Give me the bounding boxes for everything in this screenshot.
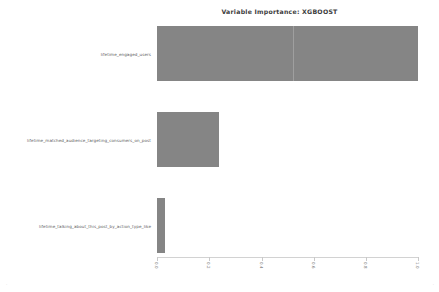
bar-row: lifetime_talking_about_this_post_by_acti… (157, 198, 418, 253)
x-axis-tick (314, 257, 315, 261)
x-axis-tick (157, 257, 158, 261)
bar-row: lifetime_engaged_users (157, 26, 418, 81)
y-axis-label-2: lifetime_talking_about_this_post_by_acti… (39, 223, 151, 228)
corner-mark-left: · (6, 282, 7, 287)
bar-lifetime-engaged-users[interactable] (157, 26, 418, 81)
x-axis-tick (262, 257, 263, 261)
bar-lifetime-matched-audience-targeting-consumers-on-post[interactable] (157, 112, 219, 167)
y-axis-label-1: lifetime_matched_audience_targeting_cons… (27, 137, 151, 142)
x-axis-tick-label-4: 0.8 (363, 262, 368, 269)
variable-importance-chart: Variable Importance: XGBOOST lifetime_en… (0, 0, 439, 292)
x-axis-tick-label-5: 1.0 (415, 262, 420, 269)
x-axis-tick-label-2: 0.4 (259, 262, 264, 269)
x-axis-tick (209, 257, 210, 261)
corner-mark-right: · (433, 282, 434, 287)
x-axis-tick (418, 257, 419, 261)
x-axis-line (157, 257, 419, 258)
x-axis-tick (366, 257, 367, 261)
x-axis-tick-label-0: 0.0 (154, 262, 159, 269)
plot-area: lifetime_engaged_users lifetime_matched_… (157, 24, 418, 257)
chart-title-text: Variable Importance: XGBOOST (221, 8, 337, 15)
x-axis-tick-label-1: 0.2 (206, 262, 211, 269)
x-axis-tick-label-3: 0.6 (311, 262, 316, 269)
bar-seam (293, 26, 294, 81)
bar-lifetime-talking-about-this-post-by-action-type-like[interactable] (157, 198, 165, 253)
bar-row: lifetime_matched_audience_targeting_cons… (157, 112, 418, 167)
chart-title: Variable Importance: XGBOOST (0, 8, 439, 15)
y-axis-label-0: lifetime_engaged_users (101, 51, 151, 56)
